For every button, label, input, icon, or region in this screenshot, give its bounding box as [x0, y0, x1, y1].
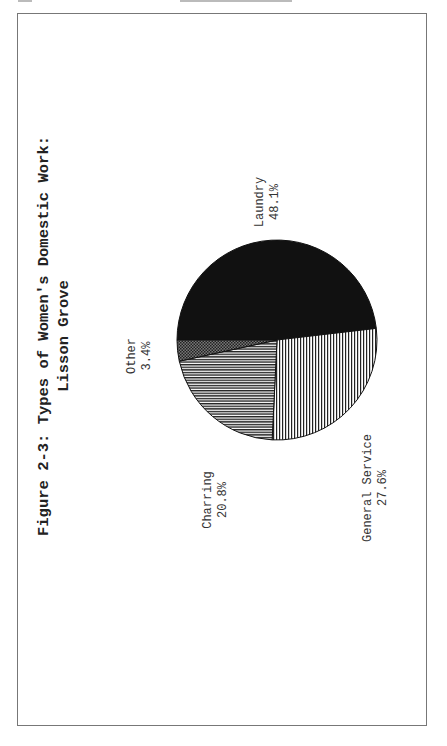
label-charring: Charring 20.8%: [201, 430, 231, 570]
label-other-name: Other: [125, 286, 140, 426]
slice-laundry: [177, 240, 376, 340]
label-charring-value: 20.8%: [216, 430, 231, 570]
label-general-service-name: General Service: [361, 408, 376, 568]
label-charring-name: Charring: [201, 430, 216, 570]
figure-title-line1: Figure 2-3: Types of Women's Domestic Wo…: [34, 76, 54, 596]
label-laundry: Laundry 48.1%: [253, 152, 283, 252]
label-other-value: 3.4%: [140, 286, 155, 426]
label-general-service-value: 27.6%: [376, 408, 391, 568]
label-laundry-name: Laundry: [253, 152, 268, 252]
label-general-service: General Service 27.6%: [361, 408, 391, 568]
label-other: Other 3.4%: [125, 286, 155, 426]
label-laundry-value: 48.1%: [268, 152, 283, 252]
figure-title: Figure 2-3: Types of Women's Domestic Wo…: [34, 76, 74, 596]
figure-title-line2: Lisson Grove: [54, 76, 74, 596]
